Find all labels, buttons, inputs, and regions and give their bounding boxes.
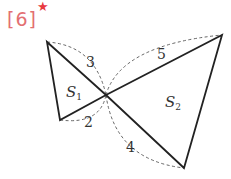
- region-label-s2: S2: [165, 93, 181, 112]
- length-label-3: 3: [86, 54, 95, 70]
- length-label-4: 4: [126, 139, 135, 155]
- triangle-left: [47, 42, 106, 120]
- region-label-s1: S1: [66, 83, 82, 102]
- length-label-5: 5: [157, 46, 166, 62]
- bowtie-triangles-diagram: S1 S2 3 5 2 4: [0, 0, 231, 179]
- length-label-2: 2: [84, 114, 93, 130]
